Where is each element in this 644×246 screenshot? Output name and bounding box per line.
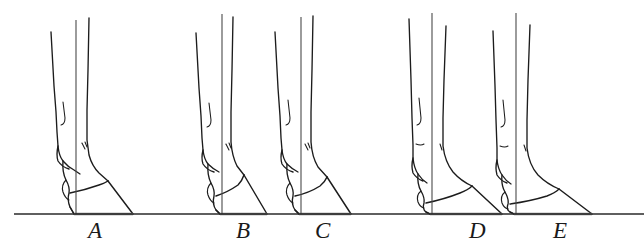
specimen-d-hair-tuft-upper — [417, 98, 421, 125]
specimen-b-anterior-contour — [231, 17, 244, 175]
specimen-e-hair-tuft-upper — [501, 100, 505, 127]
specimen-label-a: A — [88, 219, 102, 242]
specimen-label-e: E — [553, 219, 567, 242]
specimen-a-group — [51, 18, 133, 214]
specimen-e-hoof-wall — [559, 189, 592, 214]
specimen-label-b: B — [236, 219, 250, 242]
specimen-d-coronary-band — [426, 186, 472, 203]
specimen-d-hair-tuft-lower — [440, 144, 442, 150]
specimen-b-hoof-wall — [244, 175, 267, 214]
specimen-b-posterior-contour — [196, 33, 219, 172]
specimen-c-posterior-contour — [275, 32, 298, 172]
specimen-b-hair-tuft-upper — [207, 103, 211, 127]
specimen-e-hair-tuft-lower — [524, 145, 526, 151]
specimen-e-anterior-contour — [527, 25, 559, 189]
specimen-e-group — [493, 13, 592, 214]
specimen-c-hoof-wall — [327, 177, 351, 214]
specimen-e-hair-tuft-mid — [500, 146, 508, 147]
figure-canvas: A B C D E — [0, 0, 644, 246]
specimen-c-anterior-contour — [311, 16, 327, 177]
specimen-a-hoof-wall — [108, 181, 133, 214]
specimen-b-coronary-band — [216, 175, 244, 196]
specimen-c-group — [275, 16, 351, 214]
specimen-e-coronary-band — [510, 189, 559, 204]
specimen-c-coronary-band — [295, 177, 327, 196]
specimen-e-posterior-contour — [493, 31, 511, 184]
specimen-a-anterior-contour — [87, 18, 108, 181]
specimen-b-group — [196, 14, 267, 214]
specimen-b-hair-tuft-lower — [226, 144, 229, 150]
specimen-d-anterior-contour — [443, 26, 472, 186]
specimen-c-hair-tuft-lower-2 — [308, 143, 310, 148]
specimen-label-c: C — [315, 219, 330, 242]
specimen-d-hoof-wall — [472, 186, 502, 214]
specimen-d-posterior-contour — [409, 19, 427, 183]
specimen-a-hair-tuft-lower — [82, 143, 85, 149]
specimen-d-hair-tuft-mid — [416, 144, 424, 145]
specimen-a-heel-to-ground — [70, 207, 74, 214]
specimen-d-group — [409, 13, 502, 214]
specimen-a-hair-tuft-upper — [61, 102, 65, 125]
specimen-c-hair-tuft-upper — [286, 100, 290, 125]
line-drawing-svg — [0, 0, 644, 246]
specimen-c-hair-tuft-lower — [305, 144, 308, 150]
specimen-label-d: D — [469, 219, 486, 242]
